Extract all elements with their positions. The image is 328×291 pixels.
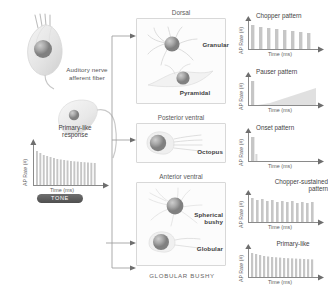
response-panel-onset: Onset pattern AP Rate (#) Time (ms) bbox=[234, 122, 328, 174]
chopper-x-arrow bbox=[317, 45, 327, 55]
onset-y-arrow bbox=[244, 128, 254, 136]
onset-histogram bbox=[250, 136, 318, 161]
primary-like-right-x-axis bbox=[248, 277, 320, 278]
primary-like-right-x-axis-label: Time (ms) bbox=[268, 279, 292, 285]
chopper-histogram bbox=[250, 24, 318, 49]
pauser-x-arrow bbox=[317, 101, 327, 111]
chopper-sustained-y-axis bbox=[248, 195, 249, 223]
cell-label-octopus: Octopus bbox=[179, 148, 223, 156]
primary-like-histogram bbox=[35, 148, 103, 185]
response-title-onset: Onset pattern bbox=[256, 124, 328, 131]
primary-like-right-x-arrow bbox=[317, 273, 327, 283]
onset-y-axis-label: AP Rate (#) bbox=[238, 139, 244, 166]
cell-label-globular: Globular bbox=[181, 245, 223, 253]
response-title-pauser: Pauser pattern bbox=[256, 68, 328, 75]
pauser-x-axis bbox=[248, 105, 320, 106]
chopper-sustained-y-axis-label: AP Rate (#) bbox=[238, 201, 244, 228]
primary-like-y-axis bbox=[33, 144, 34, 186]
chopper-sustained-x-arrow bbox=[317, 218, 327, 228]
response-title-primary-like: Primary-like bbox=[258, 240, 328, 247]
globular-input-arrow-svg bbox=[106, 236, 138, 250]
primary-like-right-y-axis bbox=[248, 249, 249, 278]
response-panel-pauser: Pauser pattern AP Rate (#) Time (ms) bbox=[234, 66, 328, 118]
cell-label-pyramidal: Pyramidal bbox=[169, 89, 221, 97]
primary-like-x-axis bbox=[33, 185, 105, 186]
pauser-x-axis-label: Time (ms) bbox=[268, 107, 292, 113]
figure-canvas: Auditory nerve afferent fiber Primary-li… bbox=[0, 0, 328, 291]
globular-cell-svg bbox=[145, 227, 203, 259]
region-box-dorsal: Granular Pyramidal bbox=[136, 18, 226, 104]
globular-input-arrow bbox=[106, 236, 138, 250]
chopper-x-axis bbox=[248, 49, 320, 50]
onset-y-axis bbox=[248, 133, 249, 162]
response-panel-chopper-sustained: Chopper-sustained pattern AP Rate (#) bbox=[234, 178, 328, 236]
cell-label-granular: Granular bbox=[195, 41, 229, 49]
region-title-anterior-ventral: Anterior ventral bbox=[136, 173, 226, 180]
primary-like-title-line2: response bbox=[36, 131, 114, 138]
chopper-x-axis-label: Time (ms) bbox=[268, 51, 292, 57]
region-title-posterior-ventral: Posterior ventral bbox=[136, 114, 226, 121]
primary-like-right-y-axis-label: AP Rate (#) bbox=[238, 255, 244, 282]
response-panel-chopper: Chopper pattern AP Rate (#) Time (ms) bbox=[234, 10, 328, 62]
region-box-anterior-ventral: Spherical bushy Globular bbox=[136, 182, 226, 266]
chopper-sustained-x-axis bbox=[248, 222, 320, 223]
primary-like-response-panel: Primary-like response AP Rate (#) bbox=[14, 124, 118, 196]
chopper-sustained-x-axis-label: Time (ms) bbox=[268, 224, 292, 230]
chopper-y-axis bbox=[248, 21, 249, 50]
primary-like-response-title: Primary-like response bbox=[36, 124, 114, 139]
region-title-dorsal: Dorsal bbox=[136, 9, 226, 16]
pauser-histogram bbox=[250, 80, 318, 105]
response-title-chopper-sustained: Chopper-sustained pattern bbox=[256, 178, 328, 193]
primary-like-right-histogram bbox=[250, 252, 318, 277]
pauser-y-arrow bbox=[244, 72, 254, 80]
onset-x-axis bbox=[248, 161, 320, 162]
chopper-y-arrow bbox=[244, 16, 254, 24]
primary-like-x-axis-label: Time (ms) bbox=[50, 187, 74, 193]
cell-label-spherical-bushy: Spherical bushy bbox=[181, 211, 223, 226]
region-box-posterior-ventral: Octopus bbox=[136, 123, 226, 163]
primary-like-y-axis-label: AP Rate (#) bbox=[22, 159, 28, 186]
chopper-sustained-histogram bbox=[250, 197, 318, 222]
onset-x-arrow bbox=[317, 157, 327, 167]
figure-bottom-caption: GLOBULAR BUSHY bbox=[130, 272, 234, 279]
response-title-chopper: Chopper pattern bbox=[256, 12, 328, 19]
cell-globular-illustration bbox=[145, 227, 203, 259]
response-panel-primary-like: Primary-like AP Rate (#) bbox=[234, 238, 328, 290]
onset-x-axis-label: Time (ms) bbox=[268, 163, 292, 169]
pauser-y-axis bbox=[248, 77, 249, 106]
chopper-y-axis-label: AP Rate (#) bbox=[238, 27, 244, 54]
primary-like-title-line1: Primary-like bbox=[36, 124, 114, 131]
pauser-y-axis-label: AP Rate (#) bbox=[238, 83, 244, 110]
tone-indicator: TONE bbox=[37, 194, 83, 203]
primary-like-right-y-arrow bbox=[244, 244, 254, 252]
